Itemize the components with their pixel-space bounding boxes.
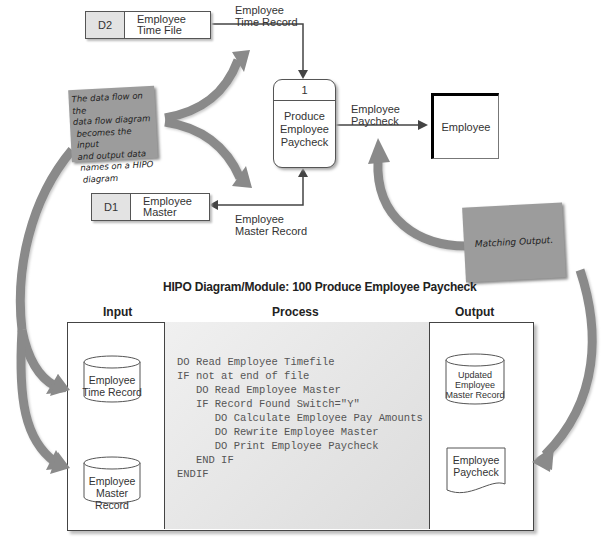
output-updated-master-record: Updated Employee Master Record [442,370,508,400]
input-master-record: Employee Master Record [78,475,146,511]
output-label-line: Paycheck [447,466,505,478]
output-employee-paycheck: Employee Paycheck [447,454,505,478]
input-label-line: Time Record [82,386,142,398]
output-label-line: Master Record [442,390,508,400]
input-time-record: Employee Time Record [82,374,142,398]
input-label-line: Employee [78,475,146,487]
output-label-line: Employee [447,454,505,466]
output-label-line: Updated [442,370,508,380]
output-label-line: Employee [442,380,508,390]
input-label-line: Employee [82,374,142,386]
hipo-shapes [0,0,603,543]
input-label-line: Master Record [78,487,146,511]
